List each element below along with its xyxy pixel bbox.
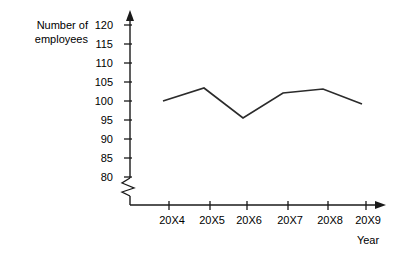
x-tick-label-20x5: 20X5 xyxy=(199,214,225,226)
y-tick-label-90: 90 xyxy=(101,133,113,145)
data-series-line xyxy=(163,88,362,118)
x-tick-label-20x9: 20X9 xyxy=(355,214,381,226)
y-tick-label-110: 110 xyxy=(95,57,113,69)
y-tick-label-120: 120 xyxy=(95,19,113,31)
y-tick-label-85: 85 xyxy=(101,152,113,164)
x-axis-title: Year xyxy=(357,234,380,246)
x-tick-label-20x7: 20X7 xyxy=(277,214,303,226)
line-chart: 120 115 110 105 100 95 90 85 80 Number o… xyxy=(0,0,397,258)
x-tick-label-20x8: 20X8 xyxy=(317,214,343,226)
y-axis-title-line2: employees xyxy=(35,33,89,45)
y-axis-title-line1: Number of xyxy=(37,19,89,31)
y-tick-label-80: 80 xyxy=(101,171,113,183)
x-axis-arrow-icon xyxy=(375,201,386,209)
y-tick-label-100: 100 xyxy=(95,95,113,107)
y-axis-break-icon xyxy=(122,178,134,196)
y-tick-label-95: 95 xyxy=(101,114,113,126)
chart-canvas: 120 115 110 105 100 95 90 85 80 Number o… xyxy=(0,0,397,258)
x-tick-label-20x6: 20X6 xyxy=(236,214,262,226)
y-tick-label-115: 115 xyxy=(95,38,113,50)
x-tick-label-20x4: 20X4 xyxy=(159,214,185,226)
y-axis-arrow-icon xyxy=(126,10,134,21)
y-tick-label-105: 105 xyxy=(95,76,113,88)
